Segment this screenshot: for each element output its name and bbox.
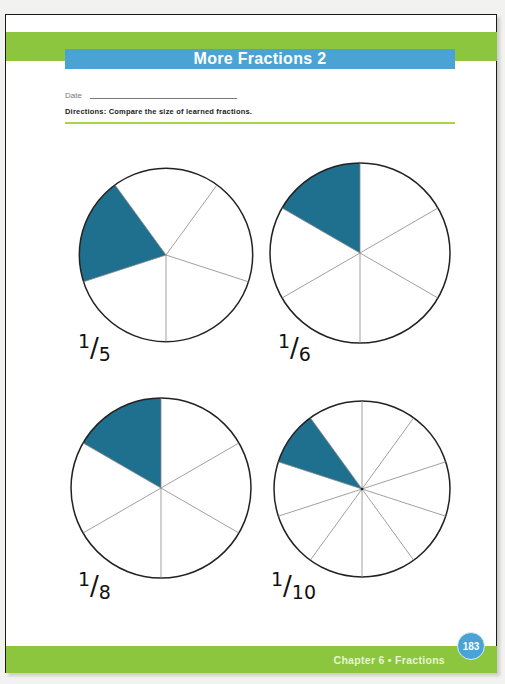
- fraction-label-1-8: 1/8: [78, 571, 111, 601]
- fraction-label-1-6: 1/6: [278, 333, 311, 363]
- pie-one-sixth: [270, 163, 450, 343]
- numerator: 1: [78, 330, 90, 352]
- chapter-footer: Chapter 6 • Fractions: [334, 647, 446, 673]
- page-number-badge: 183: [457, 632, 485, 660]
- slash: /: [283, 571, 292, 601]
- denominator: 10: [292, 581, 316, 603]
- fraction-pies: [0, 0, 505, 684]
- numerator: 1: [271, 568, 283, 590]
- fraction-label-1-5: 1/5: [78, 333, 111, 363]
- slash: /: [90, 333, 99, 363]
- pie-one-tenth: [274, 401, 450, 577]
- slash: /: [90, 571, 99, 601]
- slash: /: [290, 333, 299, 363]
- numerator: 1: [278, 330, 290, 352]
- denominator: 8: [99, 581, 111, 603]
- numerator: 1: [78, 568, 90, 590]
- denominator: 6: [299, 343, 311, 365]
- fraction-label-1-10: 1/10: [271, 571, 316, 601]
- pie-one-fifth: [79, 168, 252, 341]
- denominator: 5: [99, 343, 111, 365]
- pie-one-eighth: [71, 398, 251, 578]
